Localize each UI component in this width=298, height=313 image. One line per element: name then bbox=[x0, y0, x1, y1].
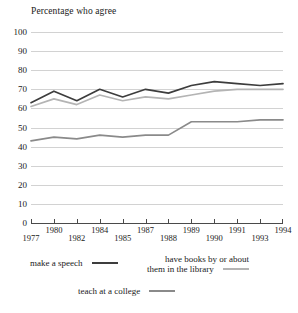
y-tick-label-90: 90 bbox=[18, 46, 27, 56]
legend-swatch-have-books bbox=[223, 268, 249, 270]
y-tick-label-30: 30 bbox=[18, 161, 27, 171]
x-axis-label-1984: 1984 bbox=[91, 225, 108, 235]
legend-item-teach-at-a-college: teach at a college bbox=[78, 286, 175, 296]
series-line-make-a-speech bbox=[31, 82, 283, 103]
x-axis-label-1994: 1994 bbox=[275, 225, 292, 235]
y-tick-label-60: 60 bbox=[18, 103, 27, 113]
series-line-teach-at-a-college bbox=[31, 120, 283, 141]
legend-item-have-books: have books by or about them in the libra… bbox=[147, 254, 249, 274]
plot-area: 1009080706050403020100 bbox=[31, 32, 283, 223]
x-axis-label-1993: 1993 bbox=[252, 233, 269, 243]
y-tick-label-100: 100 bbox=[14, 27, 28, 37]
legend-item-make-a-speech: make a speech bbox=[30, 258, 118, 268]
y-tick-label-50: 50 bbox=[18, 123, 27, 133]
legend-swatch-make-a-speech bbox=[92, 262, 118, 264]
x-axis-label-1988: 1988 bbox=[160, 233, 177, 243]
x-axis-label-1985: 1985 bbox=[114, 233, 131, 243]
y-tick-label-10: 10 bbox=[18, 199, 27, 209]
y-tick-label-40: 40 bbox=[18, 142, 27, 152]
chart-legend: make a speech have books by or about the… bbox=[0, 252, 298, 312]
x-axis-label-1982: 1982 bbox=[68, 233, 85, 243]
legend-label-have-books-line1: have books by or about bbox=[165, 254, 249, 264]
x-axis-label-1989: 1989 bbox=[183, 225, 200, 235]
chart-axis-title: Percentage who agree bbox=[31, 6, 116, 16]
legend-label-have-books-line2: them in the library bbox=[147, 264, 214, 274]
y-tick-label-20: 20 bbox=[18, 180, 27, 190]
x-axis-label-1991: 1991 bbox=[229, 225, 246, 235]
x-axis-label-1977: 1977 bbox=[23, 233, 40, 243]
line-chart: Percentage who agree 1009080706050403020… bbox=[0, 0, 298, 313]
y-tick-label-0: 0 bbox=[23, 218, 28, 228]
x-axis-label-1980: 1980 bbox=[45, 225, 62, 235]
y-tick-label-80: 80 bbox=[18, 65, 27, 75]
x-axis-labels: 1977198019821984198519871988198919901991… bbox=[31, 224, 283, 248]
legend-swatch-teach-at-a-college bbox=[149, 290, 175, 292]
x-axis-label-1987: 1987 bbox=[137, 225, 154, 235]
legend-label-make-a-speech: make a speech bbox=[30, 258, 82, 268]
legend-label-teach-at-a-college: teach at a college bbox=[78, 286, 140, 296]
y-tick-label-70: 70 bbox=[18, 84, 27, 94]
x-axis-label-1990: 1990 bbox=[206, 233, 223, 243]
series-lines bbox=[31, 32, 283, 223]
